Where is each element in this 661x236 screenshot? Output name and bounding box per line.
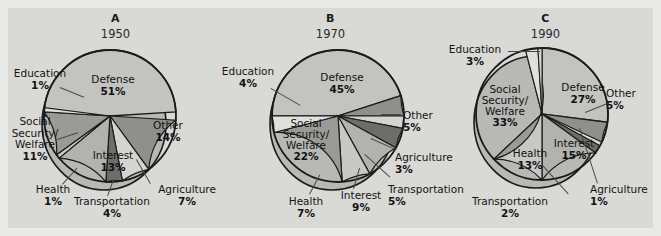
pie-a-label-ssw: Social Security/ Welfare 11% [6, 116, 64, 162]
pie-c-agriculture-name: Agriculture [590, 183, 648, 195]
pie-a-ssw-line3: Welfare [15, 138, 55, 150]
pie-c-label-other: Other 5% [606, 88, 652, 111]
pie-b-slice-label-ssw: Social Security/ Welfare 22% [275, 118, 337, 162]
pie-panel-a: A 1950 [8, 8, 223, 228]
pie-a-defense-pct: 51% [100, 85, 125, 97]
pie-c-agriculture-pct: 1% [590, 195, 608, 207]
panel-a-year: 1950 [8, 27, 223, 41]
pie-c-defense-name: Defense [561, 81, 604, 93]
pie-a-health-name: Health [36, 183, 70, 195]
pie-a-agriculture-pct: 7% [178, 195, 196, 207]
pie-b-interest-pct: 9% [352, 201, 370, 213]
pie-a-ssw-line2: Security/ [12, 127, 59, 139]
pie-c-slice-label-defense: Defense 27% [552, 82, 614, 105]
pie-a-defense-name: Defense [91, 73, 134, 85]
pie-a-education-pct: 1% [31, 79, 49, 91]
pie-b-health-name: Health [289, 195, 323, 207]
pie-b-other-name: Other [403, 109, 433, 121]
pie-a-ssw-line1: Social [19, 115, 50, 127]
pie-c-leader-education [508, 51, 540, 52]
pie-c-other-name: Other [606, 87, 636, 99]
figure-container: A 1950 [0, 0, 661, 236]
pie-a-label-transportation: Transportation 4% [66, 196, 158, 219]
pie-c-education-name: Education [449, 43, 501, 55]
pie-c-defense-pct: 27% [570, 93, 595, 105]
pie-a-agriculture-name: Agriculture [158, 183, 216, 195]
pie-c-label-agriculture: Agriculture 1% [590, 184, 656, 207]
pie-b-defense-name: Defense [320, 71, 363, 83]
pie-b-education-name: Education [222, 65, 274, 77]
pie-b-label-health: Health 7% [281, 196, 331, 219]
pie-a-education-name: Education [14, 67, 66, 79]
pie-b-slice-label-defense: Defense 45% [307, 72, 377, 95]
pie-b-ssw-pct: 22% [293, 150, 318, 162]
pie-a-transportation-pct: 4% [103, 207, 121, 219]
pie-b-defense-pct: 45% [329, 83, 354, 95]
pie-c-interest-pct: 15% [561, 149, 586, 161]
pie-c-label-transportation: Transportation 2% [464, 196, 556, 219]
pie-a-other-pct: 14% [155, 131, 180, 143]
pie-b-agriculture-pct: 3% [395, 163, 413, 175]
figure-inner-panel: A 1950 [8, 8, 653, 228]
pie-a-slice-label-defense: Defense 51% [78, 74, 148, 97]
pie-c-transportation-pct: 2% [501, 207, 519, 219]
pie-a-label-agriculture: Agriculture 7% [150, 184, 224, 207]
pie-b-health-pct: 7% [297, 207, 315, 219]
panel-a-letter: A [8, 12, 223, 25]
pie-c-other-pct: 5% [606, 99, 624, 111]
pie-c-transportation-name: Transportation [472, 195, 548, 207]
pie-b-other-pct: 5% [403, 121, 421, 133]
pie-panel-b: B 1970 [223, 8, 438, 228]
pie-b-label-interest: Interest 9% [333, 190, 389, 213]
panel-c-letter: C [438, 12, 653, 25]
pie-a-transportation-name: Transportation [74, 195, 150, 207]
pie-a-interest-pct: 13% [100, 161, 125, 173]
pie-c-slice-label-health: Health 13% [506, 148, 554, 171]
pie-a-slice-label-interest: Interest 13% [86, 150, 140, 173]
panel-c-year: 1990 [438, 27, 653, 41]
pie-b-label-education: Education 4% [215, 66, 281, 89]
pie-c-slice-label-interest: Interest 15% [548, 138, 600, 161]
pie-c-slice-label-ssw: Social Security/ Welfare 33% [474, 84, 536, 128]
pie-b-transportation-pct: 5% [388, 195, 406, 207]
pie-a-interest-name: Interest [93, 149, 133, 161]
pie-c-ssw-pct: 33% [492, 116, 517, 128]
pie-a-other-name: Other [153, 119, 183, 131]
pie-c-label-education: Education 3% [442, 44, 508, 67]
panel-b-year: 1970 [223, 27, 438, 41]
pie-a-ssw-pct: 11% [22, 150, 47, 162]
pie-c-health-pct: 13% [517, 159, 542, 171]
pie-b-interest-name: Interest [341, 189, 381, 201]
pie-c-education-pct: 3% [466, 55, 484, 67]
pie-a-slice-label-other: Other 14% [144, 120, 192, 143]
pie-c-health-name: Health [513, 147, 547, 159]
pie-a-health-pct: 1% [44, 195, 62, 207]
panel-b-letter: B [223, 12, 438, 25]
pie-b-education-pct: 4% [239, 77, 257, 89]
pie-b-leader-other [381, 114, 401, 115]
pie-c-interest-name: Interest [554, 137, 594, 149]
pie-panel-c: C 1990 [438, 8, 653, 228]
